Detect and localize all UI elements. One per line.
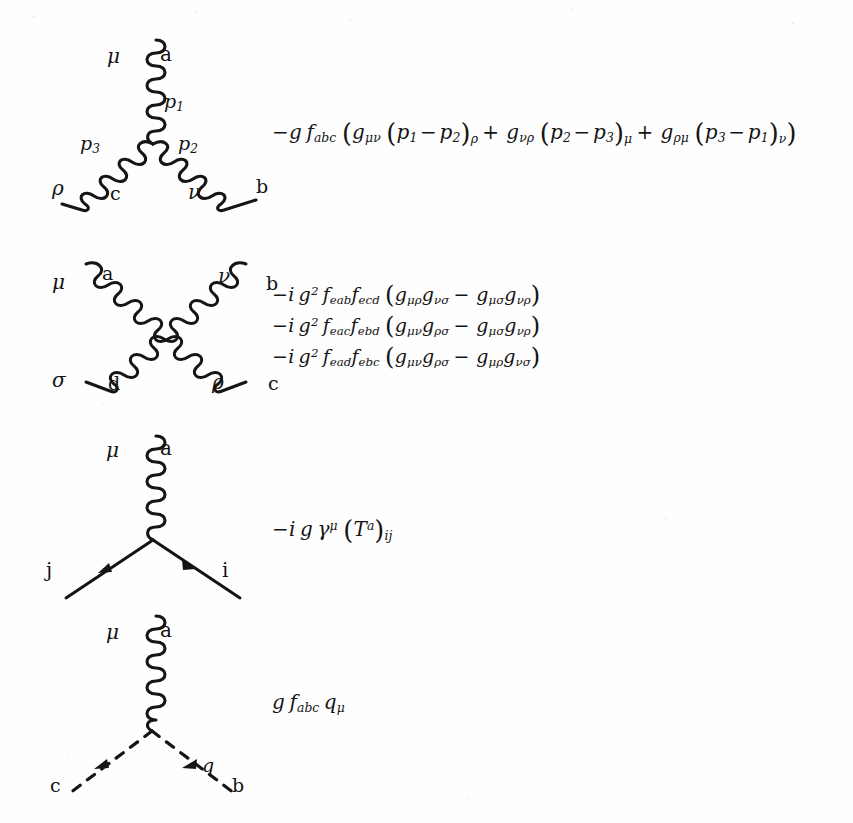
token-plus-1: + — [478, 120, 502, 144]
rule-ghost-gluon-vertex: μ a q c b gfabcqμ — [0, 600, 853, 820]
token-minus-op: − — [449, 283, 472, 305]
label-color-b: b — [256, 177, 268, 196]
diagram-ghost-gluon-vertex: μ a q c b — [60, 610, 280, 805]
token-f-second: fecd — [351, 283, 379, 305]
label-mu-gluon-a: μ — [106, 440, 119, 460]
token-minus-i: −i — [272, 283, 294, 305]
label-momentum-q: q — [202, 756, 214, 775]
token-metric-d: gνσ — [503, 345, 531, 367]
token-p1b: p1 — [748, 120, 769, 144]
label-momentum-p3: p3 — [80, 134, 100, 155]
figure-page: μ a p1 p3 p2 ρ c ν b −gfabc(gμν(p1−p2)ρ+… — [0, 0, 853, 823]
token-g-rhomu: gρμ — [656, 120, 689, 144]
token-g-squared: g2 — [294, 283, 318, 305]
label-flavor-j: j — [46, 560, 52, 580]
token-minus-2: − — [571, 120, 593, 144]
diagram-three-gluon-vertex: μ a p1 p3 p2 ρ c ν b — [60, 34, 280, 214]
token-g-squared: g2 — [294, 345, 318, 367]
token-open-paren: ( — [338, 515, 354, 545]
token-q-mu: qμ — [319, 690, 344, 714]
label-momentum-p2: p2 — [178, 134, 198, 155]
token-indices-ij: ij — [385, 528, 393, 543]
token-open-paren: ( — [336, 118, 352, 148]
gluon-leg-lower-left — [62, 142, 153, 211]
label-color-a: a — [160, 438, 172, 458]
token-metric-b: gρσ — [422, 345, 449, 367]
label-color-c: c — [50, 776, 61, 795]
token-minus-1: − — [417, 120, 439, 144]
token-close-paren-4: ) — [769, 118, 779, 148]
token-minus-i: −i — [272, 517, 296, 541]
token-open-paren: ( — [380, 280, 395, 309]
token-generator-T: Ta — [353, 517, 374, 541]
token-metric-b: gρσ — [422, 314, 449, 336]
token-open-paren: ( — [380, 311, 395, 340]
arrowhead-ghost-right — [182, 759, 197, 769]
arrowhead-left — [98, 563, 112, 573]
token-close-paren: ) — [374, 515, 384, 545]
token-p3b: p3 — [705, 120, 726, 144]
formula-quark-gluon-vertex: −igγμ(Ta)ij — [272, 515, 392, 545]
token-close-paren-2: ) — [460, 118, 470, 148]
rule-three-gluon-vertex: μ a p1 p3 p2 ρ c ν b −gfabc(gμν(p1−p2)ρ+… — [0, 0, 853, 230]
token-metric-c: gμρ — [472, 345, 503, 367]
token-close-paren: ) — [531, 280, 541, 309]
token-index-rho: ρ — [471, 131, 478, 146]
label-color-d: d — [108, 374, 120, 393]
label-flavor-i: i — [222, 560, 228, 580]
token-g-squared: g2 — [294, 314, 318, 336]
token-metric-c: gμσ — [472, 283, 504, 305]
token-g-nurho: gνρ — [502, 120, 534, 144]
label-rho-gluon-c: ρ — [212, 372, 224, 392]
label-sigma-gluon-d: σ — [52, 370, 66, 390]
token-metric-a: gμρ — [395, 283, 422, 305]
token-open-paren: ( — [380, 342, 395, 371]
token-g: g — [272, 690, 285, 714]
label-mu-gluon-a: μ — [107, 46, 120, 66]
token-g-munu: gμν — [352, 120, 381, 144]
token-minus-i: −i — [272, 345, 294, 367]
ghost-leg-left — [66, 731, 152, 796]
token-gamma-mu: γμ — [313, 517, 338, 541]
token-close-paren: ) — [786, 118, 796, 148]
gluon-leg-lower-right — [153, 142, 256, 211]
token-metric-a: gμν — [395, 314, 422, 336]
token-minus-3: − — [726, 120, 748, 144]
fermion-leg-left — [66, 540, 153, 598]
rule-four-gluon-vertex: μ a ν b σ d ρ c −ig2feabfecd(gμρgνσ−gμσg… — [0, 240, 853, 400]
token-p3: p3 — [593, 120, 614, 144]
arrowhead-ghost-left — [94, 759, 109, 769]
token-close-paren: ) — [531, 342, 541, 371]
token-f-second: febd — [350, 314, 379, 336]
diagram-four-gluon-vertex: μ a ν b σ d ρ c — [60, 258, 280, 403]
label-color-a: a — [102, 264, 113, 283]
rule-quark-gluon-vertex: μ a j i −igγμ(Ta)ij — [0, 420, 853, 600]
label-mu-gluon-a: μ — [106, 622, 119, 642]
token-p1: p1 — [396, 120, 417, 144]
label-color-a: a — [160, 620, 172, 640]
formula-three-gluon-vertex: −gfabc(gμν(p1−p2)ρ+gνρ(p2−p3)μ+gρμ(p3−p1… — [272, 118, 797, 148]
formula-four-gluon-line-1: −ig2feabfecd(gμρgνσ−gμσgνρ) — [272, 280, 540, 309]
token-metric-a: gμν — [395, 345, 422, 367]
arrowhead-right — [182, 560, 196, 570]
token-index-mu: μ — [624, 131, 632, 146]
diagram-quark-gluon-vertex: μ a j i — [60, 432, 280, 602]
label-color-c: c — [110, 184, 121, 203]
formula-four-gluon-line-3: −ig2feadfebc(gμνgρσ−gμρgνσ) — [272, 342, 540, 371]
token-minus-g: −g — [272, 120, 302, 144]
label-color-a: a — [160, 44, 172, 64]
formula-ghost-gluon-vertex: gfabcqμ — [272, 690, 345, 715]
label-mu-gluon-a: μ — [52, 272, 65, 292]
token-p2: p2 — [440, 120, 461, 144]
token-f-first: feac — [318, 314, 350, 336]
formula-four-gluon-line-2: −ig2feacfebd(gμνgρσ−gμσgνρ) — [272, 311, 540, 340]
label-color-b: b — [232, 776, 244, 795]
token-metric-b: gνσ — [422, 283, 450, 305]
label-nu-gluon-b: ν — [218, 266, 230, 286]
token-open-paren-3: ( — [534, 118, 550, 148]
token-metric-c: gμσ — [472, 314, 504, 336]
token-open-paren-4: ( — [689, 118, 705, 148]
label-nu-gluon-b: ν — [188, 182, 200, 202]
label-momentum-p1: p1 — [164, 92, 184, 113]
token-f-first: fead — [318, 345, 351, 367]
